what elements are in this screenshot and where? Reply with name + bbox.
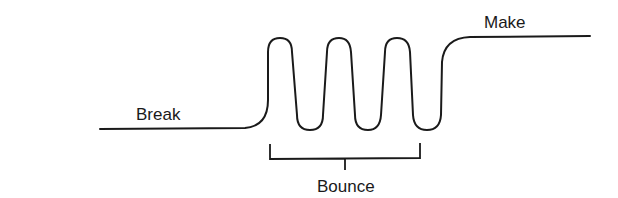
contact-bounce-diagram: Break Make Bounce: [0, 0, 618, 198]
bounce-bracket: [270, 143, 420, 170]
bounce-label: Bounce: [317, 178, 375, 195]
break-label: Break: [136, 106, 180, 123]
make-label: Make: [484, 14, 526, 31]
